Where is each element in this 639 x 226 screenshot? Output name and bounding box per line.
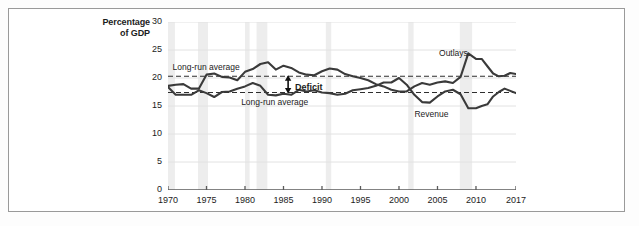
long-run-average-upper: Long-run average bbox=[173, 62, 240, 72]
deficit-label: Deficit bbox=[295, 82, 323, 92]
y-tick-label-20: 20 bbox=[140, 72, 162, 82]
x-tick-label-2017: 2017 bbox=[496, 195, 536, 205]
y-tick-label-15: 15 bbox=[140, 100, 162, 110]
x-tick-label-2010: 2010 bbox=[456, 195, 496, 205]
outlays-label: Outlays bbox=[439, 48, 468, 58]
y-tick-label-30: 30 bbox=[140, 16, 162, 26]
y-tick-label-0: 0 bbox=[140, 184, 162, 194]
x-tick-label-2000: 2000 bbox=[379, 195, 419, 205]
x-tick-label-2005: 2005 bbox=[417, 195, 457, 205]
revenue-label: Revenue bbox=[414, 109, 448, 119]
x-tick-label-1970: 1970 bbox=[148, 195, 188, 205]
x-tick-label-1975: 1975 bbox=[186, 195, 226, 205]
y-axis-title-line2: of GDP bbox=[78, 28, 150, 39]
y-tick-label-10: 10 bbox=[140, 128, 162, 138]
figure-root: Percentage of GDP 051015202530 197019751… bbox=[0, 0, 639, 226]
x-tick-label-1990: 1990 bbox=[302, 195, 342, 205]
y-tick-label-5: 5 bbox=[140, 156, 162, 166]
x-tick-label-1980: 1980 bbox=[225, 195, 265, 205]
y-tick-label-25: 25 bbox=[140, 44, 162, 54]
long-run-average-lower: Long-run average bbox=[241, 97, 308, 107]
x-tick-label-1995: 1995 bbox=[340, 195, 380, 205]
x-tick-label-1985: 1985 bbox=[263, 195, 303, 205]
